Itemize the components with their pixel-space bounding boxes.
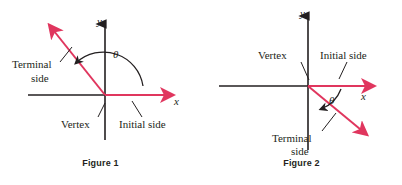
x-axis-label: x — [173, 95, 179, 107]
x-axis-label: x — [360, 90, 366, 102]
terminal-side-leader — [60, 47, 72, 62]
terminal-side-ray — [308, 86, 366, 134]
y-axis-label: y — [96, 15, 102, 27]
initial-side-leader — [339, 62, 347, 79]
figure-1-caption: Figure 1 — [0, 158, 201, 168]
figure-2-diagram: y x θ Vertex Initial side Terminal side — [201, 0, 402, 160]
angle-arc — [76, 52, 143, 86]
vertex-label: Vertex — [258, 49, 287, 61]
terminal-side-label-line2: side — [31, 72, 49, 84]
figure-2-caption: Figure 2 — [201, 158, 402, 168]
initial-side-label: Initial side — [119, 118, 166, 130]
vertex-leader — [98, 103, 105, 117]
initial-side-label: Initial side — [320, 49, 367, 61]
figure-1-panel: y x θ Terminal side Vertex Initial side … — [0, 0, 201, 185]
theta-label: θ — [113, 48, 119, 60]
figure-2-panel: y x θ Vertex Initial side Terminal side … — [201, 0, 402, 185]
theta-label: θ — [329, 94, 335, 106]
figure-1-diagram: y x θ Terminal side Vertex Initial side — [0, 0, 201, 160]
vertex-label: Vertex — [61, 118, 90, 130]
terminal-side-ray — [50, 26, 105, 95]
initial-side-leader — [132, 101, 142, 117]
terminal-side-label-line2: side — [291, 145, 309, 157]
y-axis-label: y — [299, 7, 305, 19]
terminal-side-label-line1: Terminal — [12, 58, 52, 70]
terminal-side-leader — [322, 113, 336, 131]
terminal-side-label-line1: Terminal — [272, 132, 312, 144]
